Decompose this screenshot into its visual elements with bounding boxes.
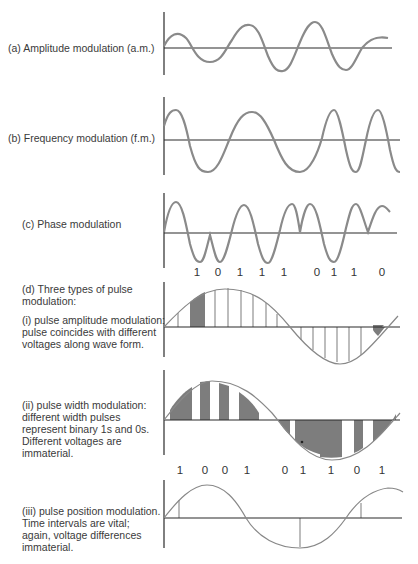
pm-bit: 1 (194, 266, 200, 278)
pwm-bit: 0 (222, 464, 228, 476)
pwm-bit: 0 (282, 464, 288, 476)
pwm-bit: 1 (300, 464, 306, 476)
pwm-graph (164, 370, 400, 460)
am-wave (164, 22, 388, 71)
pm-graph (164, 193, 397, 268)
pwm-bit: 1 (177, 464, 183, 476)
pm-bit: 0 (215, 266, 221, 278)
pm-bit: 1 (351, 266, 357, 278)
pm-bit: 1 (237, 266, 243, 278)
ppm-graph (164, 480, 403, 548)
fm-graph (164, 97, 400, 175)
pwm-bit: 1 (328, 464, 334, 476)
pm-bit: 1 (281, 266, 287, 278)
pwm-dot (301, 441, 304, 444)
pwm-bit: 1 (379, 464, 385, 476)
pwm-bit-labels: 1 0 0 1 0 1 1 0 1 (177, 464, 385, 476)
pm-bit: 1 (259, 266, 265, 278)
pm-bit-labels: 1 0 1 1 1 0 1 1 0 (194, 266, 385, 278)
pwm-pulses-upper (170, 381, 259, 420)
pm-bit: 0 (379, 266, 385, 278)
pwm-bit: 0 (202, 464, 208, 476)
fm-wave (164, 110, 400, 172)
pwm-bit: 0 (354, 464, 360, 476)
pm-bit: 1 (331, 266, 337, 278)
modulation-diagram: 1 0 1 1 1 0 1 1 0 (0, 0, 418, 564)
ppm-sine-wave (164, 485, 403, 548)
pm-bit: 0 (314, 266, 320, 278)
pwm-bit: 1 (244, 464, 250, 476)
pam-graph (164, 282, 400, 364)
am-graph (164, 12, 392, 75)
